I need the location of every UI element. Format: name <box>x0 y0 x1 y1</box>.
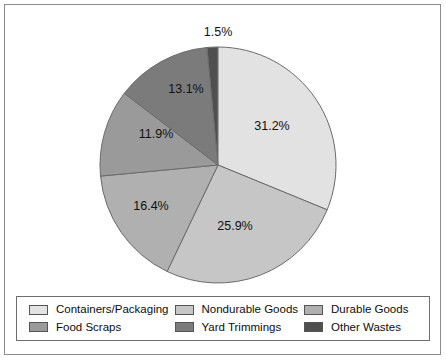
legend-item-other-wastes[interactable]: Other Wastes <box>298 319 423 337</box>
legend-label-yard-trimmings: Yard Trimmings <box>202 322 282 334</box>
pie-slice-label: 1.5% <box>204 25 233 39</box>
pie-slice-label: 11.9% <box>139 127 174 141</box>
legend-item-durable-goods[interactable]: Durable Goods <box>298 301 423 319</box>
pie-slice-label: 31.2% <box>254 119 289 133</box>
pie-chart-figure: 1.5%31.2%25.9%16.4%11.9%13.1% Containers… <box>0 0 446 360</box>
pie-slice-label: 16.4% <box>133 199 168 213</box>
legend-swatch-food-scraps <box>29 322 48 332</box>
pie-slices-group <box>100 47 336 283</box>
legend-swatch-other-wastes <box>304 322 323 332</box>
legend-item-containers-packaging[interactable]: Containers/Packaging <box>23 301 169 319</box>
legend-swatch-nondurable-goods <box>175 305 194 315</box>
legend-label-food-scraps: Food Scraps <box>56 322 121 334</box>
legend: Containers/Packaging Nondurable Goods Du… <box>16 296 430 341</box>
pie-slice-label: 25.9% <box>217 219 252 233</box>
legend-item-nondurable-goods[interactable]: Nondurable Goods <box>169 301 299 319</box>
legend-swatch-yard-trimmings <box>175 322 194 332</box>
legend-label-nondurable-goods: Nondurable Goods <box>202 304 299 316</box>
legend-item-yard-trimmings[interactable]: Yard Trimmings <box>169 319 299 337</box>
pie-slice-label: 13.1% <box>168 82 203 96</box>
legend-swatch-containers-packaging <box>29 305 48 315</box>
legend-label-durable-goods: Durable Goods <box>331 304 408 316</box>
legend-swatch-durable-goods <box>304 305 323 315</box>
legend-grid: Containers/Packaging Nondurable Goods Du… <box>17 297 429 340</box>
legend-label-other-wastes: Other Wastes <box>331 322 401 334</box>
plot-area: 1.5%31.2%25.9%16.4%11.9%13.1% <box>0 0 446 290</box>
pie-svg <box>0 0 446 290</box>
legend-item-food-scraps[interactable]: Food Scraps <box>23 319 169 337</box>
legend-label-containers-packaging: Containers/Packaging <box>56 304 169 316</box>
